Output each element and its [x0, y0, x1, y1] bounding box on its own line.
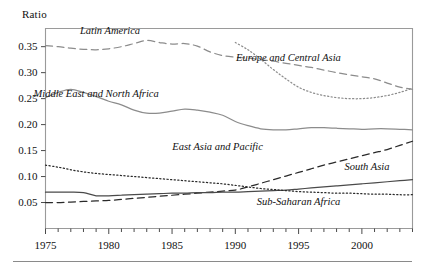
series-label-east-asia-and-pacific: East Asia and Pacific: [171, 141, 263, 152]
series-label-south-asia: South Asia: [344, 161, 389, 172]
y-axis-tick-label: 0.30: [18, 66, 38, 78]
y-axis-tick-label: 0.10: [18, 170, 38, 182]
series-label-sub-saharan-africa: Sub-Saharan Africa: [257, 196, 341, 207]
chart-figure: Ratio 0.050.100.150.200.250.300.35197519…: [0, 0, 425, 269]
x-axis-tick-label: 2000: [351, 239, 374, 251]
y-axis-tick-label: 0.20: [18, 118, 38, 130]
series-line-latin-america: [46, 40, 413, 89]
series-label-latin-america: Latin America: [79, 25, 140, 36]
x-axis-tick-label: 1990: [224, 239, 247, 251]
x-axis-tick-label: 1985: [161, 239, 184, 251]
series-label-middle-east-and-north-africa: Middle East and North Africa: [33, 88, 159, 99]
plot-frame: [46, 29, 413, 229]
y-axis-tick-label: 0.05: [18, 196, 38, 208]
line-chart-plot: 0.050.100.150.200.250.300.35197519801985…: [0, 0, 425, 269]
footer-divider: [13, 261, 412, 262]
y-axis-tick-label: 0.15: [18, 144, 38, 156]
x-axis-tick-label: 1980: [98, 239, 121, 251]
x-axis-tick-label: 1975: [35, 239, 58, 251]
series-label-europe-and-central-asia: Europe and Central Asia: [235, 52, 341, 63]
y-axis-tick-label: 0.35: [18, 40, 38, 52]
x-axis-tick-label: 1995: [288, 239, 311, 251]
